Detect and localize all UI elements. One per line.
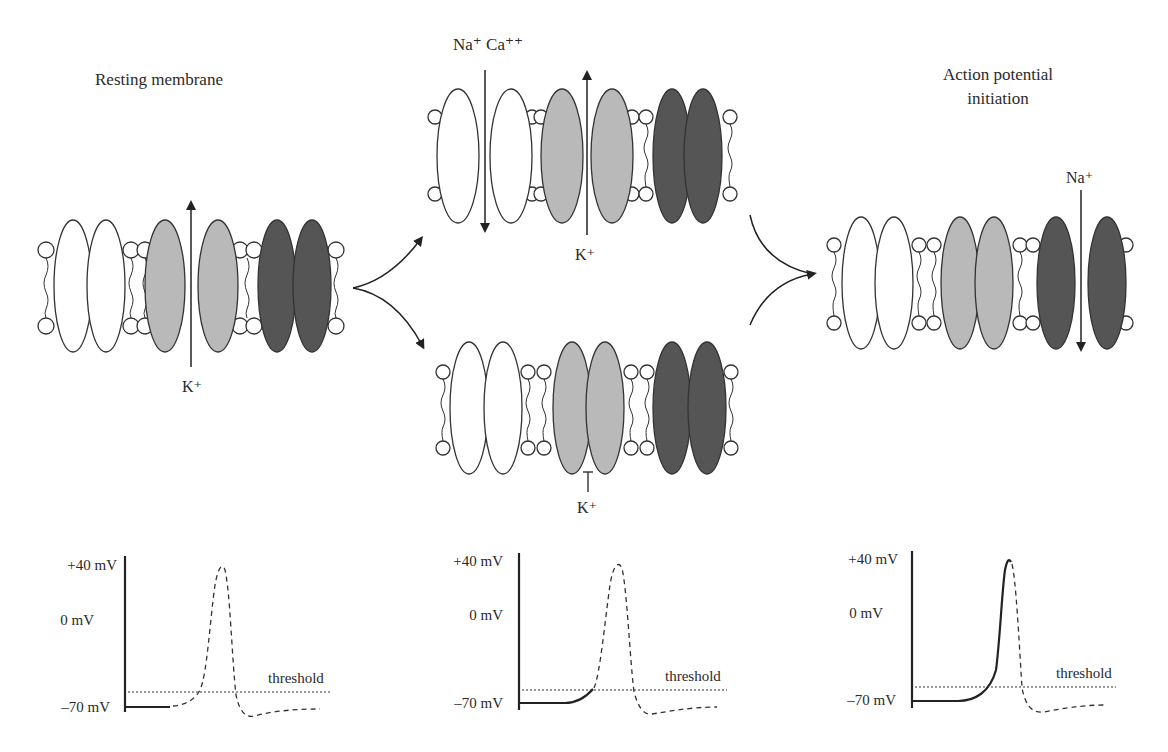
protein-white-1 — [54, 220, 92, 352]
k-label-intermediate-bottom: K⁺ — [577, 499, 597, 516]
threshold-label: threshold — [268, 670, 324, 686]
y-label-plus40: +40 mV — [848, 551, 898, 567]
threshold-label: threshold — [665, 668, 721, 684]
y-label-plus40: +40 mV — [453, 553, 503, 569]
threshold-label: threshold — [1056, 665, 1112, 681]
protein-dark-1 — [1037, 217, 1075, 349]
converge-arrow-bottom-icon — [750, 274, 812, 325]
graph-resting: +40 mV 0 mV –70 mV threshold — [60, 556, 330, 716]
protein-dark-1 — [258, 220, 296, 352]
protein-white-1 — [437, 89, 479, 223]
y-label-minus70: –70 mV — [453, 695, 503, 711]
graph-intermediate: +40 mV 0 mV –70 mV threshold — [453, 553, 727, 714]
branch-arrow-up-icon — [353, 240, 420, 288]
protein-white-1 — [842, 217, 880, 349]
potential-ap-dashed — [173, 566, 320, 716]
neuron-membrane-diagram: Resting membrane K⁺ Na⁺ Ca⁺⁺ — [0, 0, 1168, 752]
protein-white-2 — [87, 220, 125, 352]
protein-light-2 — [586, 342, 624, 474]
k-blocked-icon — [583, 472, 593, 492]
membrane-potential-solid — [519, 689, 593, 703]
k-label-resting: K⁺ — [182, 378, 202, 395]
protein-light-2 — [975, 217, 1013, 349]
converge-arrows — [750, 215, 812, 325]
y-label-minus70: –70 mV — [60, 699, 110, 715]
protein-white-2 — [484, 342, 522, 474]
protein-dark-2 — [688, 342, 726, 474]
y-label-plus40: +40 mV — [67, 557, 117, 573]
protein-dark-2 — [293, 220, 331, 352]
repolarization-dashed — [1012, 564, 1105, 712]
protein-white-1 — [450, 342, 488, 474]
intermediate-membrane-bottom — [436, 342, 738, 474]
y-label-zero: 0 mV — [849, 605, 883, 621]
branch-arrows — [353, 240, 422, 345]
y-label-zero: 0 mV — [60, 612, 94, 628]
y-label-zero: 0 mV — [469, 607, 503, 623]
branch-arrow-down-icon — [353, 288, 422, 345]
converge-arrow-top-icon — [750, 215, 812, 274]
ap-initiation-title-line2: initiation — [967, 89, 1029, 108]
resting-membrane-title: Resting membrane — [95, 70, 223, 89]
protein-white-2 — [875, 217, 913, 349]
protein-light-1 — [941, 217, 979, 349]
potential-ap-dashed — [594, 565, 717, 715]
membrane-potential-solid — [912, 560, 1011, 701]
protein-light-2 — [591, 89, 633, 223]
k-label-intermediate-top: K⁺ — [575, 246, 595, 263]
y-label-minus70: –70 mV — [846, 692, 896, 708]
initiation-membrane — [827, 217, 1133, 349]
ap-initiation-title-line1: Action potential — [943, 65, 1053, 84]
protein-light-1 — [145, 220, 185, 352]
graph-initiation: +40 mV 0 mV –70 mV threshold — [846, 551, 1116, 712]
protein-light-1 — [541, 89, 583, 223]
protein-dark-1 — [653, 342, 691, 474]
intermediate-membrane-top — [428, 89, 737, 223]
protein-dark-2 — [684, 89, 722, 223]
na-label-initiation: Na⁺ — [1066, 169, 1093, 186]
protein-light-1 — [553, 342, 591, 474]
protein-light-2 — [198, 220, 238, 352]
na-ca-label: Na⁺ Ca⁺⁺ — [453, 35, 523, 54]
protein-white-2 — [490, 89, 532, 223]
protein-dark-2 — [1088, 217, 1126, 349]
